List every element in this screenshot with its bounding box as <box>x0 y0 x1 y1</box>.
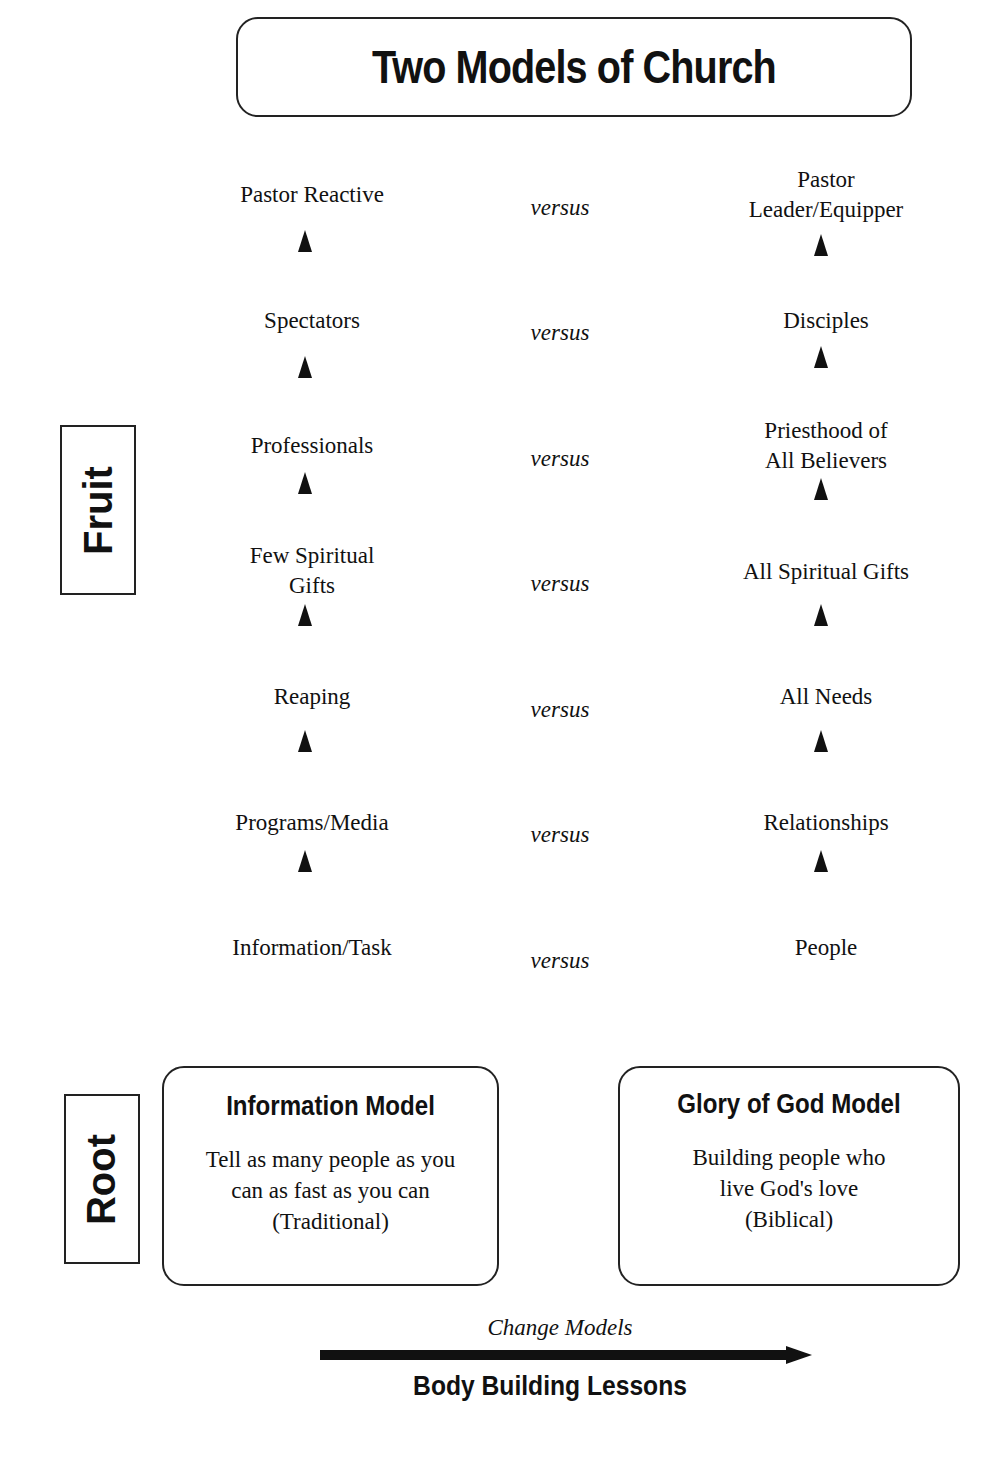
right-item-relationships: Relationships <box>676 808 976 838</box>
versus-label: versus <box>500 697 620 723</box>
up-arrow-icon <box>298 730 312 752</box>
desc-line: (Biblical) <box>620 1204 958 1235</box>
up-arrow-icon <box>814 604 828 626</box>
right-item-all-gifts: All Spiritual Gifts <box>676 557 976 587</box>
desc-line: live God's love <box>620 1173 958 1204</box>
right-item-priesthood-line2: All Believers <box>676 446 976 476</box>
right-arrow-icon <box>320 1350 788 1360</box>
up-arrow-icon <box>298 356 312 378</box>
right-item-pastor-leader-line1: Pastor <box>676 165 976 195</box>
left-item-spectators: Spectators <box>162 306 462 336</box>
information-model-title: Information Model <box>187 1090 473 1122</box>
left-item-few-gifts-line1: Few Spiritual <box>162 541 462 571</box>
up-arrow-icon <box>298 604 312 626</box>
desc-line: Building people who <box>620 1142 958 1173</box>
right-item-priesthood: Priesthood of All Believers <box>676 416 976 476</box>
right-item-people: People <box>676 933 976 963</box>
versus-label: versus <box>500 320 620 346</box>
right-item-pastor-leader: Pastor Leader/Equipper <box>676 165 976 225</box>
desc-line: can as fast as you can <box>164 1175 497 1206</box>
left-item-professionals: Professionals <box>162 431 462 461</box>
left-item-few-gifts: Few Spiritual Gifts <box>162 541 462 601</box>
up-arrow-icon <box>298 472 312 494</box>
up-arrow-icon <box>298 850 312 872</box>
left-item-information-task: Information/Task <box>162 933 462 963</box>
left-item-reaping: Reaping <box>162 682 462 712</box>
left-item-pastor-reactive: Pastor Reactive <box>162 180 462 210</box>
versus-label: versus <box>500 948 620 974</box>
title-box: Two Models of Church <box>236 17 912 117</box>
up-arrow-icon <box>814 850 828 872</box>
glory-model-title: Glory of God Model <box>644 1088 935 1120</box>
versus-label: versus <box>500 571 620 597</box>
root-label-box: Root <box>64 1094 140 1264</box>
root-label: Root <box>80 1133 125 1224</box>
up-arrow-icon <box>814 234 828 256</box>
fruit-label: Fruit <box>76 466 121 555</box>
body-building-lessons-caption: Body Building Lessons <box>348 1370 753 1402</box>
versus-label: versus <box>500 822 620 848</box>
desc-line: (Traditional) <box>164 1206 497 1237</box>
desc-line: Tell as many people as you <box>164 1144 497 1175</box>
page-title: Two Models of Church <box>372 40 776 94</box>
left-item-programs-media: Programs/Media <box>162 808 462 838</box>
glory-model-description: Building people who live God's love (Bib… <box>620 1142 958 1235</box>
glory-of-god-model-box: Glory of God Model Building people who l… <box>618 1066 960 1286</box>
up-arrow-icon <box>298 230 312 252</box>
up-arrow-icon <box>814 346 828 368</box>
up-arrow-icon <box>814 730 828 752</box>
right-item-priesthood-line1: Priesthood of <box>676 416 976 446</box>
right-item-pastor-leader-line2: Leader/Equipper <box>676 195 976 225</box>
right-item-disciples: Disciples <box>676 306 976 336</box>
left-item-few-gifts-line2: Gifts <box>162 571 462 601</box>
versus-label: versus <box>500 195 620 221</box>
change-models-label: Change Models <box>320 1315 800 1341</box>
information-model-description: Tell as many people as you can as fast a… <box>164 1144 497 1237</box>
up-arrow-icon <box>814 478 828 500</box>
right-item-all-needs: All Needs <box>676 682 976 712</box>
information-model-box: Information Model Tell as many people as… <box>162 1066 499 1286</box>
versus-label: versus <box>500 446 620 472</box>
right-arrowhead-icon <box>786 1346 812 1364</box>
fruit-label-box: Fruit <box>60 425 136 595</box>
